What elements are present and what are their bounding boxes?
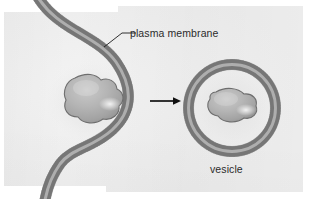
endocytosis-figure: plasma membrane vesicle (0, 0, 310, 199)
process-arrow (150, 97, 181, 105)
plasma-membrane-label: plasma membrane (130, 27, 218, 39)
vesicle-label: vesicle (210, 163, 243, 175)
